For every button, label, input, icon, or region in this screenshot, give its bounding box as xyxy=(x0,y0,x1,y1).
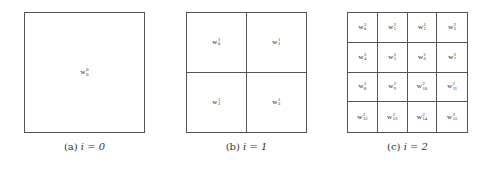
weight-base: w xyxy=(448,53,453,61)
grid-cell: w10 xyxy=(187,13,247,73)
weight-label: w13 xyxy=(272,98,280,107)
weight-label: w00 xyxy=(81,68,89,77)
grid-i2: w20w21w22w23w24w25w26w27w28w29w210w211w2… xyxy=(347,12,468,133)
caption-b: (b) i = 1 xyxy=(186,141,307,152)
panel-c: w20w21w22w23w24w25w26w27w28w29w210w211w2… xyxy=(347,12,468,133)
weight-subscript: 2 xyxy=(218,102,220,107)
grid-cell: w28 xyxy=(348,73,378,103)
weight-label: w11 xyxy=(272,38,280,47)
weight-subscript: 3 xyxy=(278,102,280,107)
weight-subscript: 1 xyxy=(394,27,396,32)
weight-subscript: 1 xyxy=(278,42,280,47)
weight-subscript: 2 xyxy=(424,27,426,32)
weight-label: w215 xyxy=(447,113,457,122)
weight-base: w xyxy=(447,113,452,121)
caption-prefix: (b) xyxy=(226,141,240,152)
weight-base: w xyxy=(81,68,86,76)
weight-base: w xyxy=(358,53,363,61)
weight-subscript: 8 xyxy=(364,87,366,92)
caption-prefix: (c) xyxy=(387,141,400,152)
grid-i0: w00 xyxy=(24,12,145,133)
weight-subscript: 15 xyxy=(453,117,458,122)
weight-subscript: 7 xyxy=(454,57,456,62)
weight-subscript: 4 xyxy=(364,57,366,62)
weight-label: w20 xyxy=(358,23,366,32)
weight-subscript: 0 xyxy=(218,42,220,47)
caption-a: (a) i = 0 xyxy=(24,141,145,152)
caption-math: i = 2 xyxy=(404,141,428,152)
weight-label: w29 xyxy=(388,82,396,91)
grid-cell: w214 xyxy=(408,102,438,132)
grid-cell: w24 xyxy=(348,43,378,73)
grid-cell: w13 xyxy=(247,73,307,133)
weight-subscript: 6 xyxy=(424,57,426,62)
weight-base: w xyxy=(418,23,423,31)
weight-label: w213 xyxy=(387,113,397,122)
caption-prefix: (a) xyxy=(64,141,78,152)
weight-label: w211 xyxy=(447,82,457,91)
weight-label: w24 xyxy=(358,53,366,62)
grid-cell: w211 xyxy=(437,73,467,103)
weight-subscript: 14 xyxy=(422,117,427,122)
weight-label: w10 xyxy=(212,38,220,47)
weight-label: w23 xyxy=(448,23,456,32)
weight-subscript: 9 xyxy=(394,87,396,92)
grid-cell: w00 xyxy=(25,13,144,132)
weight-base: w xyxy=(388,53,393,61)
weight-subscript: 3 xyxy=(454,27,456,32)
weight-subscript: 0 xyxy=(364,27,366,32)
weight-subscript: 12 xyxy=(363,117,368,122)
grid-cell: w213 xyxy=(378,102,408,132)
weight-label: w26 xyxy=(418,53,426,62)
weight-label: w27 xyxy=(448,53,456,62)
grid-cell: w12 xyxy=(187,73,247,133)
grid-cell: w23 xyxy=(437,13,467,43)
weight-base: w xyxy=(357,113,362,121)
weight-label: w210 xyxy=(417,82,427,91)
panel-a: w00 xyxy=(24,12,145,133)
weight-base: w xyxy=(212,38,217,46)
weight-subscript: 10 xyxy=(422,87,427,92)
weight-base: w xyxy=(212,98,217,106)
weight-label: w21 xyxy=(388,23,396,32)
weight-base: w xyxy=(272,38,277,46)
grid-cell: w21 xyxy=(378,13,408,43)
grid-cell: w22 xyxy=(408,13,438,43)
weight-label: w212 xyxy=(357,113,367,122)
weight-base: w xyxy=(417,82,422,90)
weight-base: w xyxy=(448,23,453,31)
weight-base: w xyxy=(388,82,393,90)
grid-cell: w27 xyxy=(437,43,467,73)
weight-base: w xyxy=(388,23,393,31)
weight-base: w xyxy=(418,53,423,61)
grid-cell: w210 xyxy=(408,73,438,103)
weight-label: w214 xyxy=(417,113,427,122)
caption-math: i = 1 xyxy=(243,141,267,152)
panel-b: w10w11w12w13 xyxy=(186,12,307,133)
weight-subscript: 0 xyxy=(86,73,88,78)
weight-label: w28 xyxy=(358,82,366,91)
grid-cell: w11 xyxy=(247,13,307,73)
weight-label: w22 xyxy=(418,23,426,32)
weight-label: w12 xyxy=(212,98,220,107)
weight-base: w xyxy=(272,98,277,106)
grid-cell: w212 xyxy=(348,102,378,132)
weight-subscript: 11 xyxy=(453,87,457,92)
weight-base: w xyxy=(358,82,363,90)
weight-subscript: 13 xyxy=(393,117,398,122)
weight-base: w xyxy=(387,113,392,121)
caption-math: i = 0 xyxy=(81,141,105,152)
weight-base: w xyxy=(447,82,452,90)
grid-cell: w26 xyxy=(408,43,438,73)
caption-c: (c) i = 2 xyxy=(347,141,468,152)
weight-subscript: 5 xyxy=(394,57,396,62)
grid-i1: w10w11w12w13 xyxy=(186,12,307,133)
grid-cell: w25 xyxy=(378,43,408,73)
grid-cell: w29 xyxy=(378,73,408,103)
weight-base: w xyxy=(358,23,363,31)
weight-label: w25 xyxy=(388,53,396,62)
grid-cell: w20 xyxy=(348,13,378,43)
grid-cell: w215 xyxy=(437,102,467,132)
weight-base: w xyxy=(417,113,422,121)
